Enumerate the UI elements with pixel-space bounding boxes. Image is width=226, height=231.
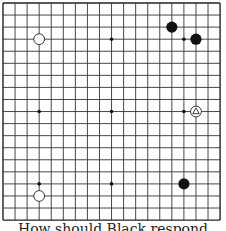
white-stone <box>34 34 45 45</box>
white-stone <box>191 106 202 117</box>
star-point <box>110 182 114 186</box>
black-stone <box>166 22 177 33</box>
go-board <box>0 0 226 222</box>
black-stone-disc <box>166 22 177 33</box>
white-stone-disc <box>34 34 45 45</box>
problem-caption: How should Black respond <box>0 222 226 231</box>
star-point <box>182 37 186 41</box>
star-point <box>110 110 114 114</box>
white-stone <box>34 191 45 202</box>
white-stone-disc <box>34 191 45 202</box>
star-point <box>37 182 41 186</box>
star-point <box>37 110 41 114</box>
caption-text: How should Black respond <box>0 222 226 231</box>
black-stone-disc <box>178 178 189 189</box>
black-stone <box>190 34 201 45</box>
star-point <box>110 37 114 41</box>
star-point <box>182 110 186 114</box>
black-stone <box>178 178 189 189</box>
black-stone-disc <box>190 34 201 45</box>
